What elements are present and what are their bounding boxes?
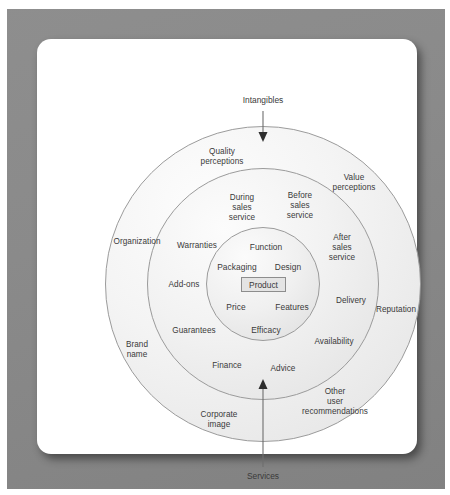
core-product-label: Product (249, 280, 278, 290)
outer-label-other-user-recommendations: Other user recommendations (282, 387, 388, 418)
middle-label-during-sales-service: During sales service (212, 193, 272, 224)
core-label-price: Price (213, 302, 259, 312)
core-label-efficacy: Efficacy (239, 325, 293, 335)
middle-label-warranties: Warranties (165, 241, 229, 251)
middle-label-guarantees: Guarantees (161, 326, 227, 336)
core-label-design: Design (263, 262, 313, 272)
outer-label-quality-perceptions: Quality perceptions (185, 147, 259, 167)
core-label-function: Function (236, 242, 296, 252)
core-label-packaging: Packaging (208, 262, 266, 272)
outer-label-brand-name: Brand name (103, 340, 171, 360)
middle-label-finance: Finance (198, 361, 256, 371)
annotation-intangibles: Intangibles (227, 95, 299, 105)
annotation-services: Services (227, 471, 299, 481)
middle-label-advice: Advice (256, 364, 310, 374)
outer-label-corporate-image: Corporate image (183, 410, 255, 430)
frame-left-edge (0, 0, 7, 495)
annotation-intangibles-label: Intangibles (243, 95, 284, 105)
core-label-features: Features (265, 302, 319, 312)
annotation-services-label: Services (247, 471, 279, 481)
figure-frame: Intangibles Services Quality perceptions… (0, 0, 450, 495)
outer-label-reputation: Reputation (360, 305, 432, 315)
outer-label-organization: Organization (99, 237, 175, 247)
core-product-box: Product (241, 277, 286, 292)
frame-right-edge (445, 0, 450, 495)
frame-bottom-edge (0, 489, 450, 495)
diagram-canvas: Intangibles Services Quality perceptions… (37, 39, 417, 454)
middle-label-after-sales-service: After sales service (314, 233, 370, 264)
middle-label-add-ons: Add-ons (154, 280, 214, 290)
middle-label-before-sales-service: Before sales service (271, 191, 329, 222)
frame-top-edge (0, 0, 450, 9)
middle-label-delivery: Delivery (322, 296, 380, 306)
middle-label-availability: Availability (302, 337, 366, 347)
